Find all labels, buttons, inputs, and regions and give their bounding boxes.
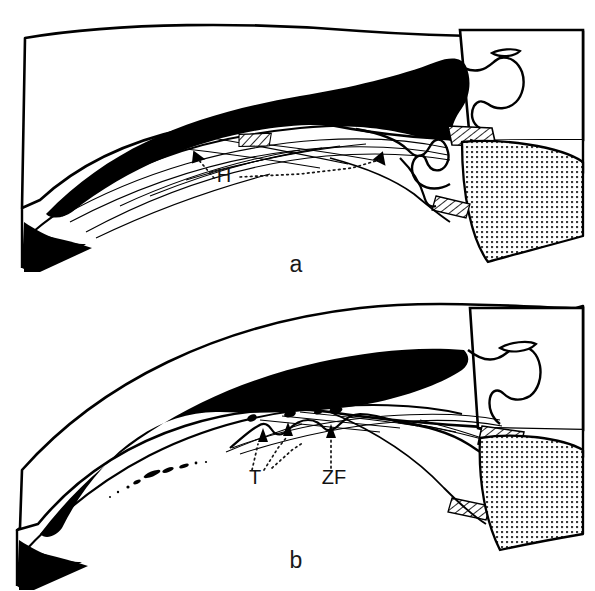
panel-caption-b: b [290,547,303,573]
label-zf: ZF [322,466,346,488]
sclera-right-block [460,30,583,141]
sclera-right-block-b [470,308,583,430]
label-t: T [249,466,261,488]
anatomical-figure-svg: H a [0,0,595,591]
panel-caption-a: a [290,251,303,277]
ciliary-body-stipple-b [480,436,583,550]
label-h: H [217,164,231,186]
figure-container: H a [0,0,595,591]
